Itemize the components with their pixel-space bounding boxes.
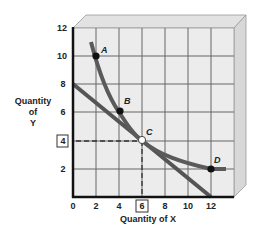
box-top-face	[73, 15, 246, 28]
y-tick-6: 6	[60, 107, 65, 117]
chart: A B C D 2 4 6 8 10 12 0 2 4 6 8 10 12 Qu…	[0, 0, 257, 235]
x-tick-4: 4	[116, 201, 121, 211]
x-tick-6: 6	[139, 201, 144, 211]
y-tick-10: 10	[57, 51, 67, 61]
point-c-label: C	[146, 127, 153, 137]
y-axis-title-line1: Quantity	[15, 96, 52, 106]
y-tick-2: 2	[60, 164, 65, 174]
x-tick-8: 8	[162, 201, 167, 211]
y-axis-title-line2: of	[29, 107, 38, 117]
point-c-marker	[138, 136, 145, 143]
y-tick-4: 4	[60, 136, 65, 146]
point-a-marker	[92, 52, 99, 59]
box-right-face	[234, 15, 246, 197]
x-tick-0: 0	[70, 201, 75, 211]
y-tick-12: 12	[57, 23, 67, 33]
x-tick-10: 10	[183, 201, 193, 211]
point-a-label: A	[100, 45, 108, 55]
point-d-label: D	[214, 155, 221, 165]
point-b-label: B	[124, 96, 131, 106]
x-tick-2: 2	[93, 201, 98, 211]
y-tick-8: 8	[60, 79, 65, 89]
x-axis-title: Quantity of X	[120, 214, 176, 224]
y-axis-title-line3: Y	[30, 118, 36, 128]
point-d-marker	[207, 165, 214, 172]
point-b-marker	[116, 107, 123, 114]
x-tick-12: 12	[206, 201, 216, 211]
